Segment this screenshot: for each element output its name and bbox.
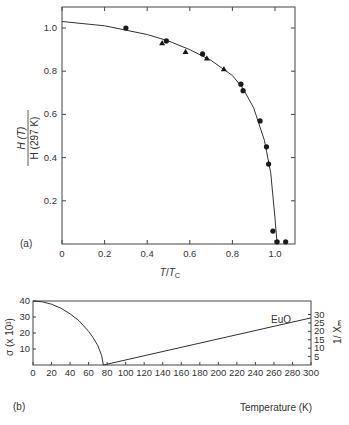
chart-b: 0204060801001201401601802002202402602803… (4, 295, 343, 413)
chart-b-x-tick-label: 160 (173, 367, 189, 378)
chart-a-x-ticks: 00.20.40.60.81.0 (59, 7, 281, 259)
chart-b-x-tick-label: 280 (285, 367, 301, 378)
chart-a-x-axis-label: T/TC (160, 267, 181, 280)
circle-data-point (238, 82, 243, 87)
chart-b-x-tick-label: 20 (46, 367, 57, 378)
chart-a-x-tick-label: 0.8 (226, 248, 239, 259)
chart-a-x-tick-label: 0.6 (183, 248, 196, 259)
circle-data-point (257, 118, 262, 123)
chart-b-left-y-ticks: 10203040 (19, 295, 36, 354)
chart-b-x-tick-label: 140 (155, 367, 171, 378)
figure-canvas: 00.20.40.60.81.0 0.20.40.60.81.0 H (T) H… (0, 0, 349, 425)
chart-b-x-ticks: 0204060801001201401601802002202402602803… (30, 362, 319, 378)
chart-b-magnetization-curve (33, 301, 103, 365)
chart-b-left-y-tick-label: 10 (19, 343, 30, 354)
circle-data-point (200, 51, 205, 56)
chart-a-y-tick-label: 0.2 (44, 195, 57, 206)
chart-b-x-tick-label: 300 (303, 367, 319, 378)
chart-a-y-tick-label: 0.4 (44, 152, 57, 163)
chart-b-x-tick-label: 40 (65, 367, 76, 378)
chart-a-x-tick-label: 1.0 (268, 248, 281, 259)
chart-a: 00.20.40.60.81.0 0.20.40.60.81.0 H (T) H… (16, 7, 295, 280)
chart-b-right-y-axis-label: 1/ Xₘ (332, 320, 343, 344)
chart-b-right-y-ticks: 51015202530 (308, 309, 325, 362)
chart-b-right-y-tick-label: 30 (314, 309, 325, 320)
chart-b-x-tick-label: 240 (247, 367, 263, 378)
chart-b-left-y-tick-label: 20 (19, 327, 30, 338)
chart-b-left-y-axis-label: σ (x 10³) (4, 318, 15, 356)
y-label-numerator: H (T) (16, 127, 27, 150)
chart-b-x-tick-label: 180 (192, 367, 208, 378)
chart-a-x-tick-label: 0.2 (98, 248, 111, 259)
circle-data-point (264, 144, 269, 149)
chart-a-y-tick-label: 0.6 (44, 108, 57, 119)
chart-a-y-tick-label: 0.8 (44, 65, 57, 76)
circle-data-point (123, 25, 128, 30)
chart-b-x-tick-label: 60 (83, 367, 94, 378)
circle-data-point (270, 228, 275, 233)
chart-b-frame (33, 301, 311, 365)
chart-b-x-tick-label: 0 (30, 367, 35, 378)
panel-label-a: (a) (20, 238, 32, 249)
chart-b-x-axis-label: Temperature (K) (240, 402, 312, 413)
chart-a-y-tick-label: 1.0 (44, 22, 57, 33)
circle-data-point (283, 239, 288, 244)
chart-b-x-tick-label: 220 (229, 367, 245, 378)
chart-b-x-tick-label: 200 (210, 367, 226, 378)
circle-data-point (240, 88, 245, 93)
triangle-data-point (221, 66, 227, 71)
y-label-denominator: H (297 K) (29, 117, 40, 160)
chart-b-x-tick-label: 260 (266, 367, 282, 378)
chart-b-x-tick-label: 100 (118, 367, 134, 378)
chart-b-x-tick-label: 120 (136, 367, 152, 378)
chart-b-left-y-tick-label: 30 (19, 311, 30, 322)
circle-data-point (164, 38, 169, 43)
triangle-data-point (183, 49, 189, 54)
circle-data-point (275, 239, 280, 244)
triangle-data-point (204, 55, 210, 60)
chart-a-y-ticks: 0.20.40.60.81.0 (44, 22, 295, 206)
chart-a-x-tick-label: 0.4 (141, 248, 154, 259)
chart-b-x-tick-label: 80 (102, 367, 113, 378)
chart-b-annotation-euo: EuO (271, 314, 291, 325)
panel-label-b: (b) (13, 401, 25, 412)
chart-a-data-points (123, 25, 288, 244)
chart-a-x-tick-label: 0 (59, 248, 64, 259)
chart-a-y-axis-label: H (T) H (297 K) (16, 110, 40, 166)
circle-data-point (266, 161, 271, 166)
chart-b-left-y-tick-label: 40 (19, 295, 30, 306)
chart-a-fit-curve (62, 22, 277, 245)
chart-a-frame (62, 7, 295, 244)
